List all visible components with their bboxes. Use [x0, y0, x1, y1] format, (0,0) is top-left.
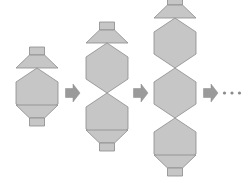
arrow-3[interactable]: [204, 84, 219, 102]
term-2-top-neck: [100, 22, 115, 30]
ellipsis-dot-3: [238, 91, 241, 94]
term-2-bottom-neck: [100, 143, 115, 151]
term-3-top-trapezoid: [154, 5, 196, 18]
term-3-hexagon-1: [154, 18, 196, 68]
term-2-bottom-trapezoid: [86, 130, 128, 143]
arrow-1[interactable]: [66, 84, 81, 102]
ellipsis: [223, 91, 241, 94]
diagram-canvas: [0, 0, 247, 185]
ellipsis-dot-1: [223, 91, 226, 94]
term-1-bottom-trapezoid: [16, 105, 58, 118]
term-2-top-trapezoid: [86, 30, 128, 43]
term-3-bottom-trapezoid: [154, 155, 196, 168]
term-3-hexagon-2: [154, 68, 196, 118]
term-1-top-neck: [30, 47, 45, 55]
term-3-top-neck: [168, 0, 183, 5]
arrow-2[interactable]: [134, 84, 149, 102]
term-3-bottom-neck: [168, 168, 183, 176]
term-1-group[interactable]: [16, 47, 58, 126]
hexagon-sequence-diagram: [0, 0, 247, 185]
term-2-group[interactable]: [86, 22, 128, 151]
ellipsis-dot-2: [230, 91, 233, 94]
term-3-group[interactable]: [154, 0, 196, 176]
term-1-top-trapezoid: [16, 55, 58, 68]
term-2-hexagon-1: [86, 43, 128, 93]
term-1-bottom-neck: [30, 118, 45, 126]
